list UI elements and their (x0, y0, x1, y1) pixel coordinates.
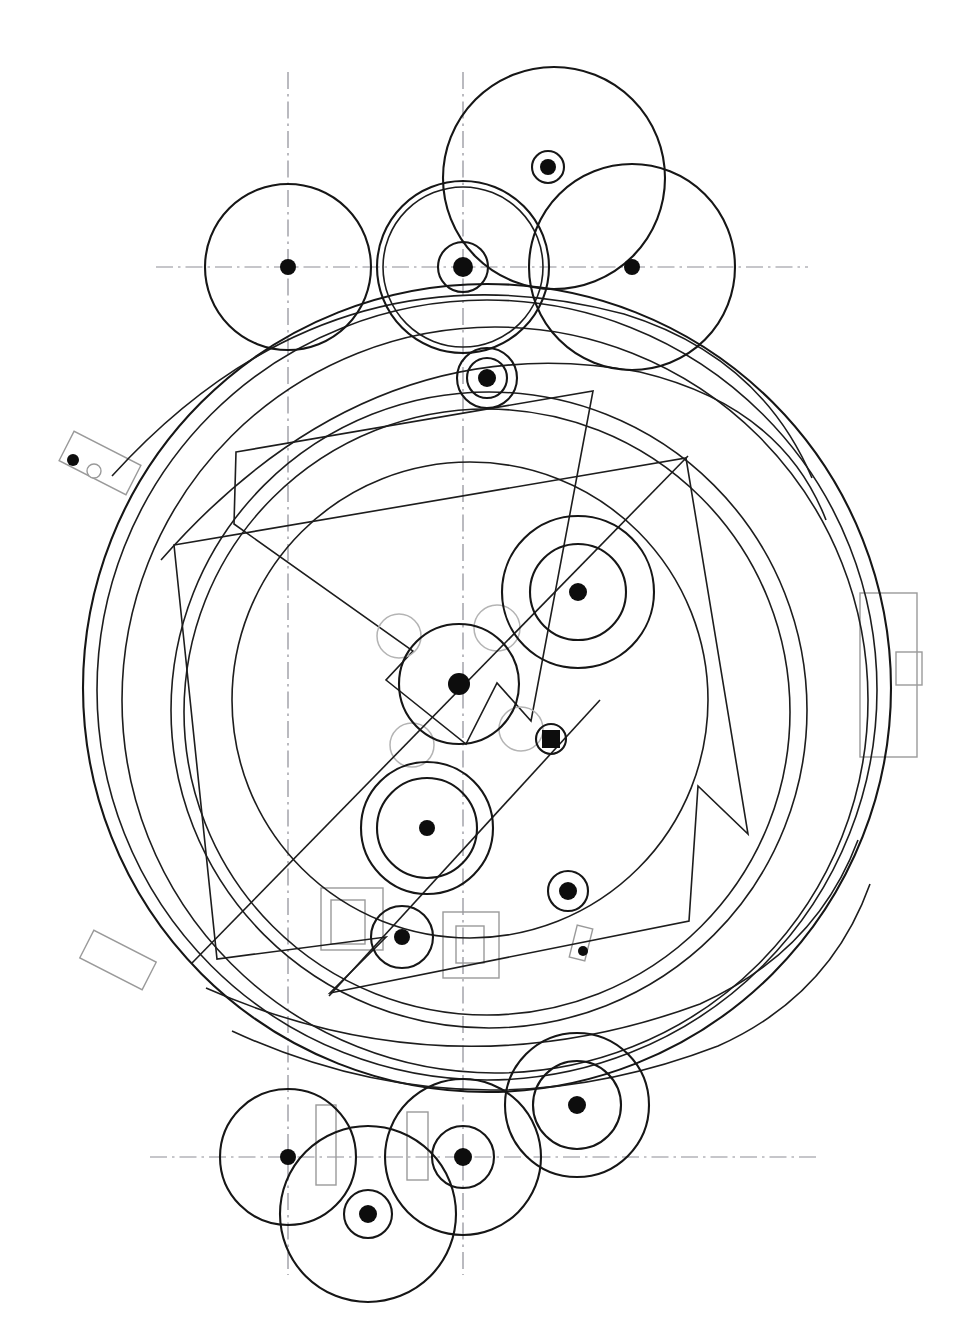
right-flange-boss (896, 652, 922, 685)
inner-rim-1 (171, 392, 807, 1028)
lower-left-tab-bracket (80, 930, 156, 989)
hub-lower-right-dot (559, 882, 577, 900)
hub-marker-group (220, 151, 654, 1302)
left-tab-hole (87, 464, 101, 478)
hub-bottom-left-dot (280, 1149, 296, 1165)
hub-center-main-dot (448, 673, 470, 695)
hub-top-mid-dot (453, 257, 473, 277)
bottom-slot-left (316, 1105, 336, 1185)
hub-top-right (624, 259, 640, 275)
inner-rim-2 (184, 409, 790, 1015)
hub-upper-stem (457, 348, 517, 408)
hub-bottom-right (505, 1033, 649, 1177)
outer-rim-1 (83, 284, 891, 1092)
hub-upper-stem-dot (478, 369, 496, 387)
pin-plate-dot (578, 946, 588, 956)
light-circle-lower-left (390, 723, 434, 767)
lower-mid-plate-a-inner (331, 900, 365, 944)
sweep-arc-group (112, 295, 870, 1090)
lower-mid-plate-b-inner (456, 926, 484, 963)
light-circle-upper-left (377, 614, 421, 658)
hub-lower-left-dot (419, 820, 435, 836)
top-apex-circle (443, 67, 665, 289)
hub-top-left (280, 259, 296, 275)
hub-lower-left (361, 762, 493, 894)
hub-lower-small-dot (394, 929, 410, 945)
hub-top-left-dot (280, 259, 296, 275)
left-tab-dot (67, 454, 79, 466)
hub-center-main (399, 624, 519, 744)
outer-rim-3 (122, 327, 868, 1073)
diagonal-line-group (192, 456, 688, 996)
drawing-canvas (0, 0, 970, 1330)
mid-ring (232, 462, 708, 938)
main-diagonal-axis (192, 456, 688, 963)
hub-top-right-dot (624, 259, 640, 275)
technical-drawing-root (0, 0, 970, 1330)
hub-lower-right (548, 871, 588, 911)
hub-bottom-drop (280, 1126, 456, 1302)
hub-right-mid-dot (569, 583, 587, 601)
hub-bottom-right-dot (568, 1096, 586, 1114)
small-marker-group (67, 454, 588, 956)
hub-right-mid (502, 516, 654, 668)
outer-arc-group (83, 284, 891, 1092)
hub-bottom-drop-dot (359, 1205, 377, 1223)
hub-bottom-mid-dot (454, 1148, 472, 1166)
hub-top-apex-dot (540, 159, 556, 175)
hub-top-apex (532, 151, 564, 183)
hub-square-pin-square (542, 730, 560, 748)
